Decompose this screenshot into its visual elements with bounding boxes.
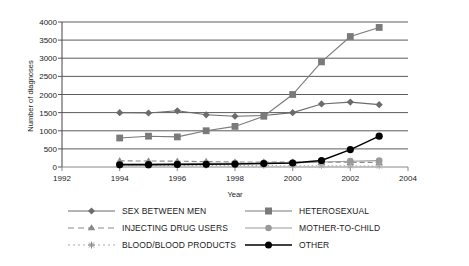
circle-filled-marker-icon [347,146,354,153]
circle-filled-marker-icon [265,242,272,249]
legend-label: HETEROSEXUAL [299,206,369,216]
gridlines [62,22,408,149]
legend-item-other: OTHER [245,240,329,250]
asterisk-marker-icon [88,242,95,249]
x-tick-labels: 1992 1994 1996 1998 2000 2002 2004 [53,174,417,183]
legend-item-heterosexual: HETEROSEXUAL [245,206,369,216]
legend-label: OTHER [299,240,329,250]
x-tick-label: 1996 [168,174,186,183]
square-marker-icon [203,127,210,134]
diamond-marker-icon [289,109,296,116]
circle-filled-marker-icon [376,133,383,140]
circle-filled-marker-icon [318,157,325,164]
legend-item-sex-between-men: SEX BETWEEN MEN [68,206,206,216]
y-tick-label: 1000 [39,127,57,136]
y-tick-label: 4000 [39,18,57,27]
diamond-marker-icon [231,113,238,120]
x-tick-label: 1998 [226,174,244,183]
legend-item-blood-blood-products: BLOOD/BLOOD PRODUCTS [68,240,236,250]
y-tick-label: 3500 [39,36,57,45]
square-marker-icon [289,91,296,98]
diamond-marker-icon [376,101,383,108]
circle-filled-marker-icon [289,159,296,166]
legend-item-injecting-drug-users: INJECTING DRUG USERS [68,223,228,233]
asterisk-marker-icon [347,163,354,170]
legend-label: MOTHER-TO-CHILD [299,223,380,233]
legend-label: SEX BETWEEN MEN [122,206,206,216]
triangle-marker-icon [88,224,96,230]
x-tick-label: 2004 [399,174,417,183]
x-axis-title: Year [227,190,243,199]
circle-filled-marker-icon [174,161,181,168]
legend-label: BLOOD/BLOOD PRODUCTS [122,240,236,250]
diamond-marker-icon [174,107,181,114]
y-tick-label: 500 [44,145,58,154]
legend-item-mother-to-child: MOTHER-TO-CHILD [245,223,380,233]
y-tick-label: 3000 [39,54,57,63]
square-marker-icon [145,133,152,140]
circle-marker-icon [265,225,272,232]
series-heterosexual [116,24,382,141]
circle-filled-marker-icon [145,161,152,168]
chart-container: Number of diagnoses 4000 3500 3000 2500 … [0,0,469,266]
y-axis-title: Number of diagnoses [26,60,35,132]
diamond-marker-icon [318,100,325,107]
square-marker-icon [260,113,267,120]
square-marker-icon [318,58,325,65]
y-tick-label: 2500 [39,72,57,81]
y-tick-labels: 4000 3500 3000 2500 2000 1500 1000 500 0 [39,18,57,172]
square-marker-icon [174,134,181,141]
x-tick-label: 2002 [341,174,359,183]
square-marker-icon [347,33,354,40]
circle-filled-marker-icon [231,161,238,168]
chart-legend: SEX BETWEEN MEN INJECTING DRUG USERS BLO… [68,206,380,250]
diamond-marker-icon [145,109,152,116]
y-axis-ticks [58,22,62,167]
x-tick-label: 1992 [53,174,71,183]
square-marker-icon [376,24,383,31]
circle-filled-marker-icon [116,161,123,168]
x-tick-label: 2000 [284,174,302,183]
x-tick-label: 1994 [111,174,129,183]
diamond-marker-icon [88,208,95,215]
y-tick-label: 0 [53,163,58,172]
y-tick-label: 2000 [39,91,57,100]
line-chart: Number of diagnoses 4000 3500 3000 2500 … [0,0,469,266]
y-tick-label: 1500 [39,109,57,118]
series-layer [116,24,383,169]
circle-filled-marker-icon [260,160,267,167]
square-marker-icon [116,135,123,142]
diamond-marker-icon [347,99,354,106]
square-marker-icon [232,123,239,130]
square-marker-icon [265,208,272,215]
asterisk-marker-icon [376,163,383,170]
legend-label: INJECTING DRUG USERS [122,223,228,233]
diamond-marker-icon [116,109,123,116]
circle-filled-marker-icon [203,161,210,168]
series-sex-between-men [116,99,383,120]
